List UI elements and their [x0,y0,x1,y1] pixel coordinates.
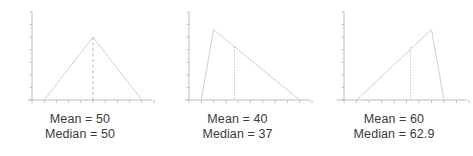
plot-area-right-skewed [160,0,315,112]
mean-label: Mean = 60 [354,112,435,127]
chart-panel-right-skewed: Mean = 40 Median = 37 [160,0,315,156]
caption-symmetric: Mean = 50 Median = 50 [45,112,115,142]
caption-left-skewed: Mean = 60 Median = 62.9 [354,112,435,142]
median-label: Median = 37 [202,127,272,142]
distribution-curve [357,30,445,100]
triangular-distributions-figure: Mean = 50 Median = 50 [0,0,473,156]
mean-label: Mean = 50 [45,112,115,127]
plot-area-left-skewed [315,0,473,112]
chart-panel-symmetric: Mean = 50 Median = 50 [0,0,160,156]
median-label: Median = 50 [45,127,115,142]
median-label: Median = 62.9 [354,127,435,142]
distribution-curve [44,37,142,100]
chart-left-skewed [315,0,473,112]
mean-label: Mean = 40 [202,112,272,127]
caption-right-skewed: Mean = 40 Median = 37 [202,112,272,142]
chart-right-skewed [160,0,315,112]
distribution-curve [201,30,299,100]
chart-symmetric [0,0,160,112]
plot-area-symmetric [0,0,160,112]
chart-panel-left-skewed: Mean = 60 Median = 62.9 [315,0,473,156]
